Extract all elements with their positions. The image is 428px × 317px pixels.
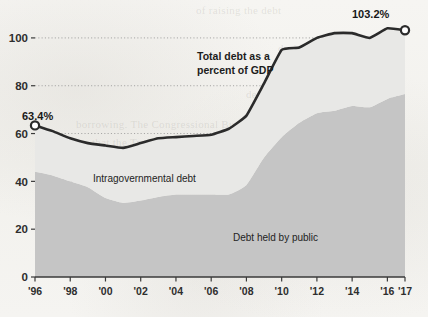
- y-tick-label-20: 20: [15, 223, 28, 235]
- x-tick-label-10: '10: [275, 285, 289, 297]
- y-tick-label-40: 40: [15, 176, 28, 188]
- x-tick-label-98: '98: [63, 285, 77, 297]
- x-tick-label-96: '96: [28, 285, 42, 297]
- x-tick-label-00: '00: [98, 285, 112, 297]
- y-tick-label-0: 0: [22, 271, 28, 283]
- x-tick-label-17: '17: [398, 285, 412, 297]
- y-tick-label-60: 60: [15, 128, 28, 140]
- end-value-annotation: 103.2%: [352, 8, 390, 20]
- y-tick-label-100: 100: [9, 32, 28, 44]
- x-tick-label-16: '16: [380, 285, 394, 297]
- x-axis-ticks: '96'98'00'02'04'06'08'10'12'14'16'17: [28, 277, 412, 297]
- total-debt-label-line1: Total debt as a: [197, 50, 270, 62]
- intragovernmental-label: Intragovernmental debt: [93, 173, 196, 184]
- y-tick-label-80: 80: [15, 80, 28, 92]
- x-tick-label-04: '04: [169, 285, 183, 297]
- x-tick-label-06: '06: [204, 285, 218, 297]
- x-tick-label-14: '14: [345, 285, 359, 297]
- y-axis-ticks: 020406080100: [9, 32, 35, 283]
- x-tick-label-02: '02: [134, 285, 148, 297]
- x-tick-label-08: '08: [239, 285, 253, 297]
- x-tick-label-12: '12: [310, 285, 324, 297]
- public-debt-label: Debt held by public: [233, 232, 318, 243]
- debt-chart: of raising the debt during the fiscal br…: [0, 0, 428, 317]
- chart-svg: '96'98'00'02'04'06'08'10'12'14'16'17 020…: [0, 0, 428, 317]
- total-debt-label-line2: percent of GDP: [197, 64, 273, 76]
- start-value-annotation: 63.4%: [22, 110, 53, 122]
